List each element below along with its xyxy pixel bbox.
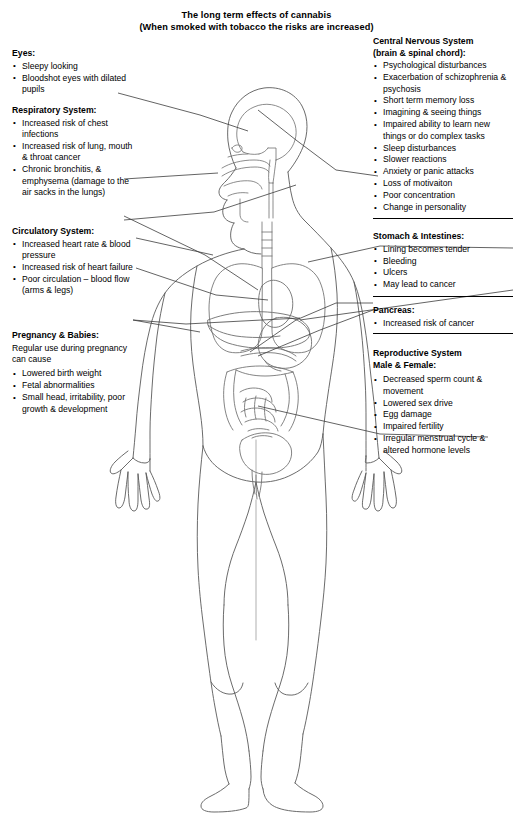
leader-cns — [258, 110, 378, 176]
list-item: Decreased sperm count & movement — [373, 374, 513, 397]
pancreas-heading: Pancreas: — [373, 305, 513, 317]
list-item: Small head, irritability, poor growth & … — [12, 392, 138, 415]
list-item: Increased risk of chest infections — [12, 118, 138, 141]
list-item: Egg damage — [373, 409, 513, 420]
infographic-page: The long term effects of cannabis (When … — [0, 0, 513, 818]
circulatory-list: Increased heart rate & blood pressure In… — [12, 239, 138, 297]
callout-reproductive: Reproductive System Male & Female: Decre… — [373, 348, 513, 457]
callout-respiratory: Respiratory System: Increased risk of ch… — [12, 105, 138, 199]
list-item: Psychological disturbances — [373, 60, 513, 71]
list-item: Increased risk of heart failure — [12, 262, 138, 273]
divider-stomach-pancreas — [373, 296, 513, 297]
intestines — [224, 366, 299, 438]
pregnancy-intro: Regular use during pregnancy can cause — [12, 343, 138, 366]
callout-stomach: Stomach & Intestines: Lining becomes ten… — [373, 231, 513, 302]
leader-respiratory-lungs — [124, 185, 296, 220]
list-item: Lowered birth weight — [12, 368, 138, 379]
reproductive-heading: Reproductive System Male & Female: — [373, 348, 513, 371]
list-item: Bleeding — [373, 256, 513, 267]
respiratory-list: Increased risk of chest infections Incre… — [12, 118, 138, 199]
callout-cns: Central Nervous System (brain & spinal c… — [373, 36, 513, 224]
circulatory-heading: Circulatory System: — [12, 226, 138, 238]
callout-circulatory: Circulatory System: Increased heart rate… — [12, 226, 138, 297]
list-item: Slower reactions — [373, 154, 513, 165]
eyes-heading: Eyes: — [12, 48, 138, 60]
leader-pregnancy-2 — [133, 320, 200, 332]
callout-pancreas: Pancreas: Increased risk of cancer — [373, 305, 513, 338]
pregnancy-heading: Pregnancy & Babies: — [12, 330, 138, 342]
cns-list: Psychological disturbances Exacerbation … — [373, 60, 513, 213]
list-item: Increased risk of cancer — [373, 318, 513, 329]
arms — [150, 282, 366, 459]
list-item: Anxiety or panic attacks — [373, 166, 513, 177]
list-item: Ulcers — [373, 267, 513, 278]
divider-pancreas-reproductive — [373, 333, 513, 334]
list-item: Fetal abnormalities — [12, 380, 138, 391]
respiratory-heading: Respiratory System: — [12, 105, 138, 117]
pregnancy-list: Lowered birth weight Fetal abnormalities… — [12, 368, 138, 415]
pancreas-list: Increased risk of cancer — [373, 318, 513, 329]
list-item: Impaired ability to learn new things or … — [373, 119, 513, 142]
list-item: Lowered sex drive — [373, 398, 513, 409]
list-item: Chronic bronchitis, & emphysema (damage … — [12, 164, 138, 198]
list-item: Bloodshot eyes with dilated pupils — [12, 73, 138, 96]
list-item: Poor circulation – blood flow (arms & le… — [12, 274, 138, 297]
mouth-palate — [222, 160, 270, 222]
feet — [201, 783, 323, 812]
list-item: Irregular menstrual cycle & altered horm… — [373, 433, 513, 456]
list-item: Loss of motivaiton — [373, 178, 513, 189]
list-item: Poor concentration — [373, 190, 513, 201]
neck-trachea — [244, 172, 304, 268]
eyes-list: Sleepy looking Bloodshot eyes with dilat… — [12, 61, 138, 96]
left-hand — [110, 451, 160, 511]
list-item: Sleep disturbances — [373, 143, 513, 154]
list-item: Increased heart rate & blood pressure — [12, 239, 138, 262]
list-item: Sleepy looking — [12, 61, 138, 72]
bladder-reproductive — [240, 433, 292, 499]
list-item: Impaired fertility — [373, 421, 513, 432]
legs — [197, 434, 327, 789]
list-item: Exacerbation of schizophrenia & psychosi… — [373, 72, 513, 95]
leader-pancreas-2 — [258, 310, 373, 356]
right-hand — [352, 451, 402, 511]
reproductive-list: Decreased sperm count & movement Lowered… — [373, 374, 513, 456]
callout-pregnancy: Pregnancy & Babies: Regular use during p… — [12, 330, 138, 416]
leader-respiratory-lungs-2 — [124, 216, 258, 290]
stomach — [258, 317, 311, 371]
list-item: Imagining & seeing things — [373, 107, 513, 118]
divider-cns-stomach — [373, 218, 513, 219]
pancreas — [241, 348, 296, 361]
brain — [237, 104, 296, 218]
list-item: Increased risk of lung, mouth & throat c… — [12, 141, 138, 164]
list-item: May lead to cancer — [373, 279, 513, 290]
leader-pregnancy — [133, 318, 300, 324]
list-item: Change in personality — [373, 202, 513, 213]
cns-heading: Central Nervous System (brain & spinal c… — [373, 36, 513, 59]
list-item: Lining becomes tender — [373, 244, 513, 255]
stomach-heading: Stomach & Intestines: — [373, 231, 513, 243]
list-item: Short term memory loss — [373, 95, 513, 106]
leader-respiratory-throat — [124, 173, 218, 179]
callout-eyes: Eyes: Sleepy looking Bloodshot eyes with… — [12, 48, 138, 96]
stomach-list: Lining becomes tender Bleeding Ulcers Ma… — [373, 244, 513, 291]
